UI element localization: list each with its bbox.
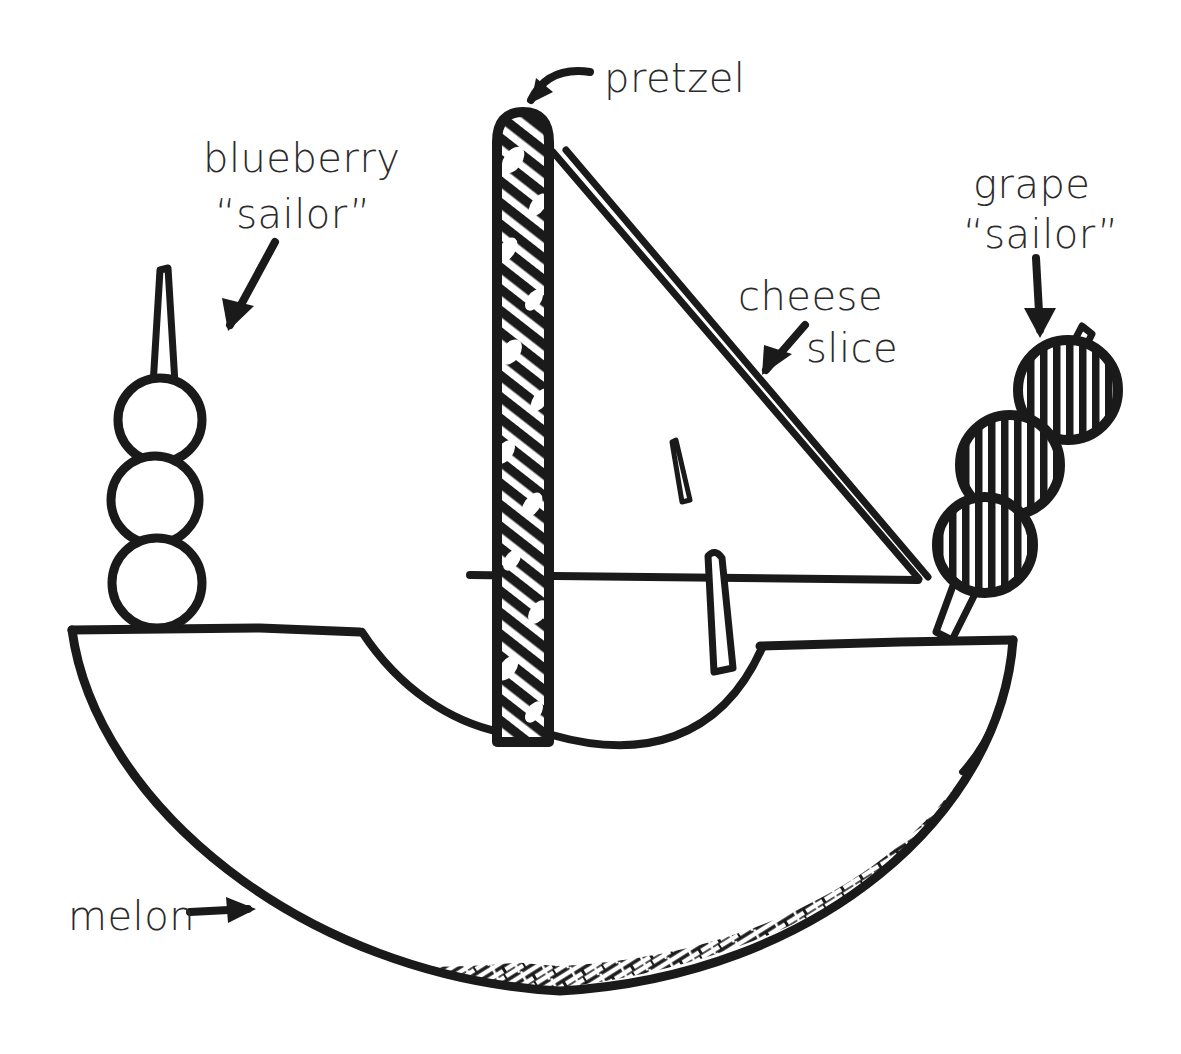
label-blueberry-line2: “sailor” bbox=[215, 191, 371, 237]
blueberry-1 bbox=[118, 378, 202, 462]
blueberry-3 bbox=[112, 538, 202, 628]
blueberry-2 bbox=[111, 456, 199, 544]
label-cheese-line1: cheese bbox=[738, 273, 883, 319]
fruit-boat-drawing: pretzel blueberry “sailor” grape “sailor… bbox=[0, 0, 1181, 1054]
label-blueberry-line1: blueberry bbox=[203, 135, 401, 181]
label-pretzel: pretzel bbox=[604, 55, 745, 101]
label-cheese-line2: slice bbox=[806, 325, 898, 371]
label-grape-line1: grape bbox=[973, 161, 1090, 207]
illustration-root: pretzel blueberry “sailor” grape “sailor… bbox=[0, 0, 1181, 1054]
label-melon: melon bbox=[68, 893, 195, 939]
pretzel-stick-mast bbox=[490, 105, 560, 750]
label-grape-line2: “sailor” bbox=[963, 211, 1119, 257]
